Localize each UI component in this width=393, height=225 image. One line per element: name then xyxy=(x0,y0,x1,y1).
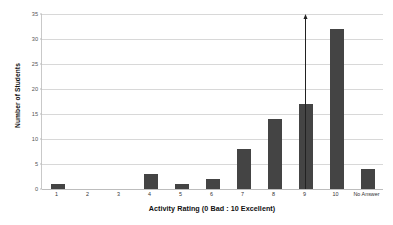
bars-layer xyxy=(42,14,383,189)
bar-slot xyxy=(135,14,166,189)
bar xyxy=(237,149,251,189)
x-tick-label: 1 xyxy=(55,191,58,197)
bar-slot xyxy=(42,14,73,189)
bar-slot xyxy=(197,14,228,189)
bar xyxy=(51,184,65,189)
bar-chart-figure: Number of Students 05101520253035 123456… xyxy=(0,0,393,225)
y-tick-label: 0 xyxy=(35,186,38,192)
y-axis-title-label: Number of Students xyxy=(14,63,21,128)
y-tick-label: 15 xyxy=(32,111,38,117)
y-tick-label: 30 xyxy=(32,36,38,42)
bar xyxy=(330,29,344,189)
bar-slot xyxy=(352,14,383,189)
threshold-arrow-annotation xyxy=(301,14,310,189)
x-tick-label: 8 xyxy=(272,191,275,197)
arrow-shaft xyxy=(305,18,306,189)
y-tick-label: 25 xyxy=(32,61,38,67)
y-tick-label: 20 xyxy=(32,86,38,92)
bar-slot xyxy=(259,14,290,189)
gridline xyxy=(42,189,383,190)
x-tick-label: 3 xyxy=(117,191,120,197)
plot-area: 05101520253035 xyxy=(41,14,383,189)
bar-slot xyxy=(321,14,352,189)
bar xyxy=(175,184,189,189)
bar xyxy=(206,179,220,189)
y-tick-label: 10 xyxy=(32,136,38,142)
x-axis-tick-labels: 12345678910No Answer xyxy=(41,191,383,203)
x-tick-label: 4 xyxy=(148,191,151,197)
bar xyxy=(144,174,158,189)
x-tick-label: 6 xyxy=(210,191,213,197)
bar xyxy=(268,119,282,189)
bar-slot xyxy=(228,14,259,189)
x-axis-title: Activity Rating (0 Bad : 10 Excellent) xyxy=(41,204,383,213)
x-tick-label: 10 xyxy=(333,191,339,197)
bar xyxy=(361,169,375,189)
bar-slot xyxy=(104,14,135,189)
x-tick-label: 7 xyxy=(241,191,244,197)
bar-slot xyxy=(166,14,197,189)
y-tick-label: 5 xyxy=(35,161,38,167)
bar-slot xyxy=(73,14,104,189)
x-tick-label: 2 xyxy=(86,191,89,197)
x-tick-label: 5 xyxy=(179,191,182,197)
x-tick-label: No Answer xyxy=(353,191,379,197)
x-tick-label: 9 xyxy=(303,191,306,197)
y-tick-label: 35 xyxy=(32,11,38,17)
y-axis-title: Number of Students xyxy=(9,0,25,190)
